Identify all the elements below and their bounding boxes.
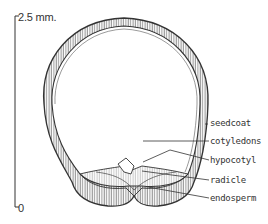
label-hypocotyl: hypocotyl [210,156,256,165]
label-cotyledons: cotyledons [210,137,261,146]
label-seedcoat: seedcoat [210,119,251,128]
label-endosperm: endosperm [210,194,256,203]
seed-illustration [0,0,268,224]
scale-bar [15,16,19,207]
cotyledons-shape [72,32,184,176]
scale-top-label: 2.5 mm. [18,12,56,23]
label-radicle: radicle [210,176,246,185]
scale-bottom-label: 0 [18,203,24,214]
seed-diagram: 2.5 mm. 0 seedcoat cotyledons hypocotyl … [0,0,268,224]
